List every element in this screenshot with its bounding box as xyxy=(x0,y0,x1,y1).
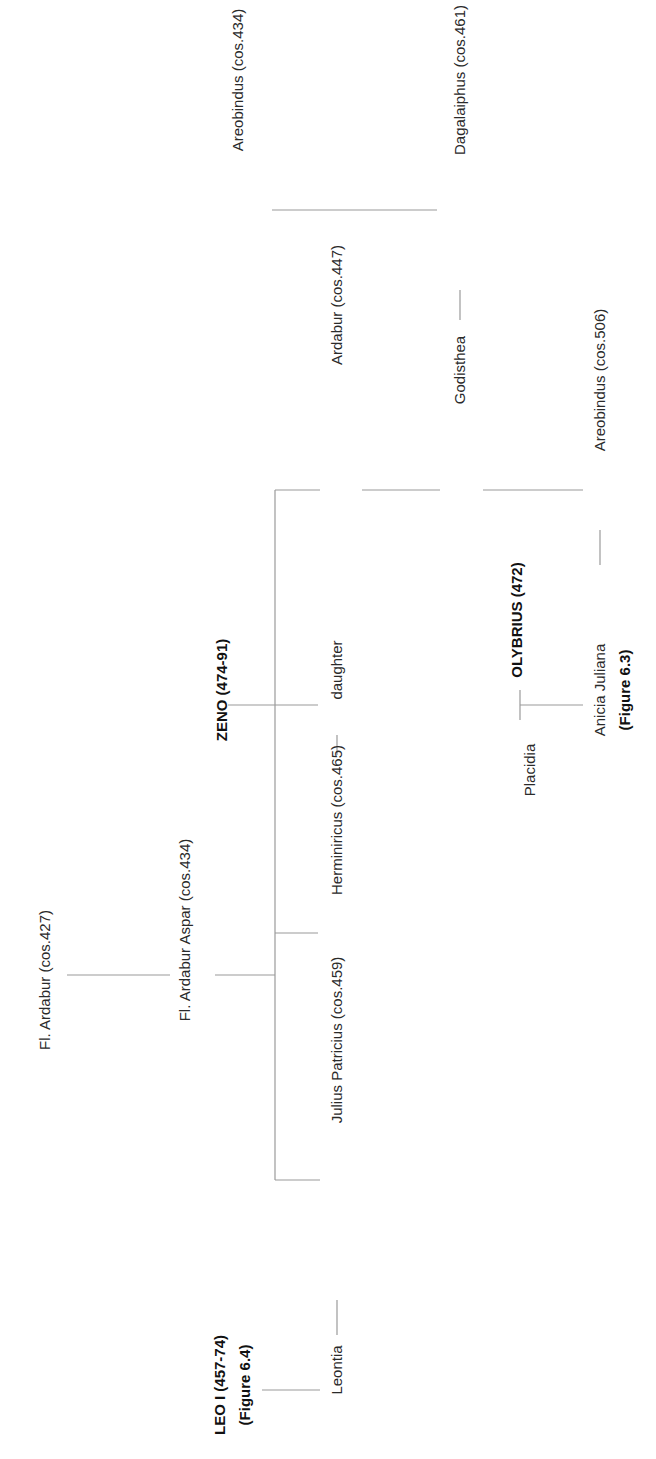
person-fl-ardabur: Fl. Ardabur (cos.427) xyxy=(36,910,54,1050)
person-zeno: ZENO (474-91) xyxy=(213,639,231,742)
person-leontia: Leontia xyxy=(328,1345,346,1394)
person-daughter: daughter xyxy=(328,640,346,699)
person-areobindus-506: Areobindus (cos.506) xyxy=(591,309,609,452)
figure-reference-leo-i: (Figure 6.4) xyxy=(236,1345,254,1426)
person-placidia: Placidia xyxy=(521,744,539,797)
person-ardabur-447: Ardabur (cos.447) xyxy=(328,245,346,365)
person-herminiricus: Herminiricus (cos.465) xyxy=(328,745,346,895)
person-fl-ardabur-aspar: Fl. Ardabur Aspar (cos.434) xyxy=(176,839,194,1022)
person-anicia-juliana: Anicia Juliana xyxy=(591,644,609,737)
figure-reference-anicia-juliana: (Figure 6.3) xyxy=(616,650,634,731)
person-olybrius: OLYBRIUS (472) xyxy=(508,562,526,677)
person-julius-patricius: Julius Patricius (cos.459) xyxy=(328,957,346,1124)
person-dagalaiphus: Dagalaiphus (cos.461) xyxy=(451,5,469,155)
person-godisthea: Godisthea xyxy=(451,336,469,404)
connector-lines xyxy=(0,0,656,1459)
person-leo-i: LEO I (457-74) xyxy=(211,1335,229,1435)
person-areobindus-434: Areobindus (cos.434) xyxy=(229,9,247,152)
